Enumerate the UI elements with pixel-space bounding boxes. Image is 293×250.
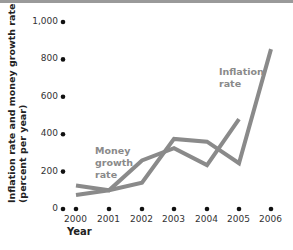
y-tick-label: 600 (41, 91, 58, 101)
x-tick-label: 2003 (162, 214, 185, 224)
money-label-line3: rate (95, 169, 133, 181)
money-label-line2: growth (95, 157, 133, 169)
y-tick-dot (61, 20, 66, 25)
y-tick-dot (61, 95, 66, 100)
money-label-line1: Money (95, 145, 133, 157)
x-tick-label: 2005 (227, 214, 250, 224)
y-tick-label: 0 (52, 203, 58, 213)
x-tick-dot (107, 207, 112, 212)
y-tick-label: 400 (41, 128, 58, 138)
inflation-label-line1: Inflation (219, 66, 264, 78)
y-tick-label: 1,000 (32, 16, 58, 26)
x-axis-title: Year (67, 226, 92, 237)
x-tick-label: 2001 (97, 214, 120, 224)
y-tick-dot (61, 57, 66, 62)
y-axis-title: Inflation rate and money growth rate (pe… (6, 4, 28, 203)
x-tick-dot (269, 207, 274, 212)
x-tick-label: 2004 (195, 214, 218, 224)
inflation-label-line2: rate (219, 78, 264, 90)
line-chart (0, 0, 293, 250)
y-tick-dot (61, 207, 66, 212)
x-tick-label: 2002 (130, 214, 153, 224)
x-tick-dot (172, 207, 177, 212)
x-tick-label: 2000 (64, 214, 87, 224)
x-tick-dot (140, 207, 145, 212)
y-tick-label: 800 (41, 53, 58, 63)
money-growth-rate-label: Money growth rate (95, 145, 133, 181)
y-tick-dot (61, 169, 66, 174)
x-tick-label: 2006 (259, 214, 282, 224)
inflation-rate-label: Inflation rate (219, 66, 264, 90)
y-tick-dot (61, 132, 66, 137)
x-tick-dot (237, 207, 242, 212)
x-tick-dot (74, 207, 79, 212)
y-axis-title-line2: (percent per year) (17, 4, 28, 203)
y-axis-title-line1: Inflation rate and money growth rate (6, 4, 17, 203)
y-tick-label: 200 (41, 166, 58, 176)
x-tick-dot (205, 207, 210, 212)
